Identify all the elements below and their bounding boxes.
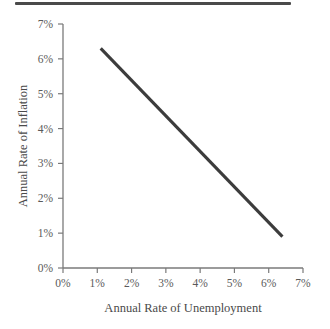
y-tick-label: 1% — [38, 227, 54, 239]
y-tick-label: 0% — [38, 262, 54, 274]
x-tick-label: 1% — [90, 277, 106, 289]
x-axis-title: Annual Rate of Unemployment — [104, 301, 262, 315]
data-series-group — [101, 48, 283, 236]
x-axis-tick-labels: 0%1%2%3%4%5%6%7% — [55, 277, 311, 289]
y-tick-label: 5% — [38, 88, 54, 100]
x-tick-label: 0% — [55, 277, 71, 289]
y-tick-label: 4% — [38, 123, 54, 135]
phillips-curve-chart: 0%1%2%3%4%5%6%7% 0%1%2%3%4%5%6%7% Annual… — [0, 0, 330, 329]
x-tick-label: 2% — [124, 277, 140, 289]
x-tick-label: 5% — [227, 277, 243, 289]
chart-figure: 0%1%2%3%4%5%6%7% 0%1%2%3%4%5%6%7% Annual… — [0, 0, 330, 329]
x-axis-tick-marks — [63, 268, 303, 273]
y-axis-title: Annual Rate of Inflation — [16, 84, 30, 207]
y-tick-label: 7% — [38, 18, 54, 30]
y-tick-label: 6% — [38, 53, 54, 65]
x-tick-label: 6% — [261, 277, 277, 289]
x-tick-label: 7% — [295, 277, 311, 289]
x-tick-label: 4% — [192, 277, 208, 289]
y-tick-label: 3% — [38, 157, 54, 169]
y-axis-tick-marks — [58, 24, 63, 268]
y-tick-label: 2% — [38, 192, 54, 204]
data-line-phillips-curve — [101, 48, 283, 236]
y-axis-tick-labels: 0%1%2%3%4%5%6%7% — [38, 18, 54, 274]
x-tick-label: 3% — [158, 277, 174, 289]
